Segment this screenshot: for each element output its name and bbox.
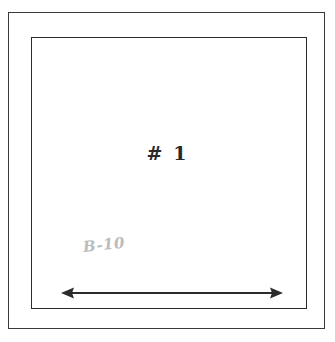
sketch-canvas: # 1 B-10 (0, 0, 335, 342)
panel-number-label: # 1 (0, 144, 335, 163)
inner-rectangle-border (31, 37, 307, 309)
dimension-arrow-icon (60, 283, 284, 303)
